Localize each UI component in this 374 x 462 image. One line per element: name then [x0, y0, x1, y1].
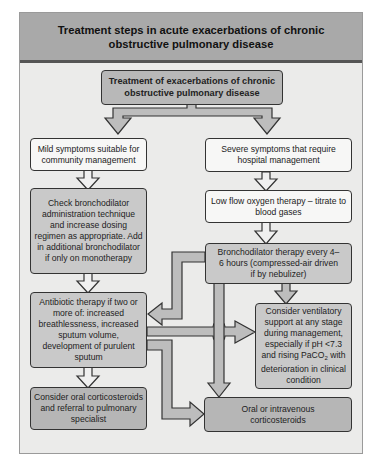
arrow-antibiotic-to-oral-iv: [147, 340, 204, 426]
node-oral-corticosteroids-referral: Consider oral corticosteroids and referr…: [30, 387, 147, 430]
arrow-bronchodilator-to-oral-iv: [208, 283, 230, 397]
arrow-bronchodilator-to-ventilatory: [275, 283, 297, 304]
arrow-severe-to-oxygen: [255, 172, 277, 191]
arrow-mild-to-check: [77, 170, 99, 190]
node-low-flow-oxygen: Low flow oxygen therapy – titrate to blo…: [205, 190, 352, 223]
node-ventilatory-support: Consider ventilatory support at any stag…: [255, 303, 352, 389]
arrow-bronchodilator-to-antibiotic: [148, 252, 205, 325]
node-bronchodilator-therapy: Bronchodilator therapy every 4–6 hours (…: [205, 243, 352, 284]
arrow-antibiotic-to-referral: [77, 367, 99, 388]
node-severe-symptoms: Severe symptoms that require hospital ma…: [205, 138, 352, 172]
node-check-bronchodilator: Check bronchodilator administration tech…: [30, 188, 147, 274]
arrow-oxygen-to-bronchodilator: [255, 222, 277, 244]
node-mild-symptoms: Mild symptoms suitable for community man…: [30, 138, 147, 171]
arrow-check-to-antibiotic: [77, 273, 99, 293]
node-oral-iv-corticosteroids: Oral or intravenous corticosteroids: [204, 397, 352, 432]
node-antibiotic-therapy: Antibiotic therapy if two or more of: in…: [30, 292, 147, 368]
node-root: Treatment of exacerbations of chronic ob…: [101, 70, 283, 105]
arrow-root-split: [105, 104, 280, 134]
